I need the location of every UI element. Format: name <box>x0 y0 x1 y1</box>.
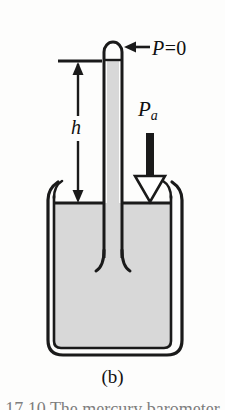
label-vacuum-pressure-value: 0 <box>176 37 186 59</box>
figure-caption-cutoff: 17.10 The mercury barometer <box>0 399 225 410</box>
label-vacuum-pressure-symbol: P <box>152 37 165 59</box>
label-height: h <box>68 116 84 138</box>
figure-barometer: P=0 Pa h (b) 17.10 The mercury barometer <box>0 0 225 410</box>
label-atmospheric-pressure: Pa <box>138 97 158 124</box>
label-vacuum-pressure-equals: = <box>165 37 177 59</box>
beaker-rim-right-curl <box>163 181 171 198</box>
label-atmospheric-pressure-symbol: P <box>138 97 151 121</box>
barometer-illustration <box>0 0 225 410</box>
atmospheric-pressure-arrow <box>135 133 165 202</box>
figure-caption: (b) <box>0 366 225 388</box>
vacuum-pointer-arrow <box>124 42 150 53</box>
label-atmospheric-pressure-subscript: a <box>151 108 158 123</box>
tube-liquid-fill <box>107 60 119 266</box>
label-vacuum-pressure: P=0 <box>152 37 187 60</box>
